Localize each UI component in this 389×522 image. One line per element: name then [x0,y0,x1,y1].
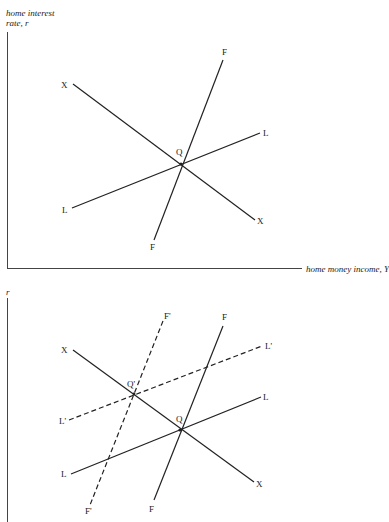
bottom-label-l-prime-start: L' [59,416,66,426]
bottom-label-l-start: L [61,469,67,479]
bottom-label-f-prime-end: F' [85,506,92,516]
bottom-curve-f-prime [90,321,163,505]
top-label-x-end: X [257,216,264,226]
bottom-label-q: Q [176,414,183,424]
bottom-label-f-prime-start: F' [164,311,171,321]
bottom-label-l-prime-end: L' [265,341,272,351]
bottom-curve-ff [154,326,223,500]
bottom-label-x-end: X [256,479,263,489]
bottom-point-q [178,428,181,431]
bottom-point-q-prime [133,393,136,396]
bottom-label-f-start: F [222,312,227,322]
top-axes [7,32,302,269]
bottom-label-f-end: F [149,504,154,514]
top-label-l-end: L [263,128,269,138]
top-label-l-start: L [62,205,68,215]
top-curve-ll [72,133,260,208]
top-curve-xx [73,84,255,220]
top-point-q [179,162,182,165]
top-curve-ff [154,60,223,240]
top-label-x-start: X [61,80,68,90]
top-label-q: Q [176,147,183,157]
top-label-f-start: F [222,47,227,57]
top-label-f-end: F [150,242,155,252]
bottom-label-l-end: L [263,392,269,402]
bottom-label-q-prime: Q' [127,379,135,389]
bottom-label-x-start: X [61,345,68,355]
